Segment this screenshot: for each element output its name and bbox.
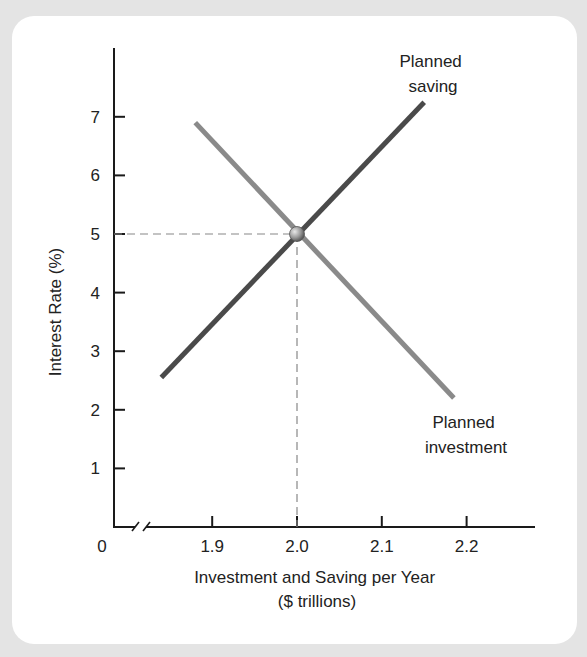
x-tick-labels: 1.92.02.12.2: [200, 537, 478, 556]
planned-investment-line: [195, 123, 454, 398]
y-tick-label: 3: [91, 342, 100, 361]
origin-label: 0: [97, 537, 106, 556]
x-tick-label: 2.0: [285, 537, 309, 556]
y-tick-labels: 1234567: [91, 108, 100, 479]
planned-saving-label: Planned saving: [399, 52, 466, 96]
x-ticks: [212, 516, 466, 527]
y-ticks: [114, 117, 125, 469]
y-tick-label: 1: [91, 459, 100, 478]
x-axis-title: Investment and Saving per Year ($ trilli…: [194, 568, 440, 611]
y-tick-label: 6: [91, 166, 100, 185]
x-tick-label: 1.9: [200, 537, 224, 556]
equilibrium-point-marker: [290, 227, 305, 242]
y-tick-label: 2: [91, 401, 100, 420]
y-tick-label: 4: [91, 284, 100, 303]
chart-canvas: 1234567 1.92.02.12.2 0 Planned saving Pl…: [0, 0, 587, 657]
planned-investment-label: Planned investment: [425, 413, 507, 457]
axis-break-icon: [132, 522, 150, 531]
x-tick-label: 2.2: [455, 537, 479, 556]
y-tick-label: 5: [91, 225, 100, 244]
y-axis-title: Interest Rate (%): [46, 248, 65, 377]
x-tick-label: 2.1: [370, 537, 394, 556]
y-tick-label: 7: [91, 108, 100, 127]
